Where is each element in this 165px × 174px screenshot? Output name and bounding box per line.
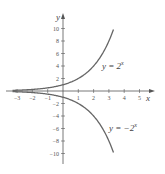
curve-label-2x: y = 2x	[101, 60, 124, 71]
y-tick-label: −6	[53, 126, 59, 132]
y-tick-label: −2	[53, 101, 59, 107]
y-tick-label: 4	[56, 63, 59, 69]
axes	[6, 13, 155, 164]
y-tick-label: 10	[53, 26, 59, 32]
x-tick-label: 1	[77, 95, 80, 101]
y-tick-label: −4	[53, 113, 59, 119]
curve-label-neg2x: y = −2x	[108, 122, 137, 133]
x-tick-label: 3	[107, 95, 110, 101]
y-axis-label: y	[55, 12, 60, 22]
y-tick-label: 6	[56, 51, 59, 57]
x-tick-label: −2	[29, 95, 35, 101]
x-tick-label: −3	[14, 95, 20, 101]
y-tick-label: −8	[53, 138, 59, 144]
x-tick-label: 2	[92, 95, 95, 101]
x-tick-label: −1	[45, 95, 51, 101]
x-axis-label: x	[145, 93, 150, 103]
y-tick-label: 2	[56, 76, 59, 82]
chart-plot: −3−2−112345108642−2−4−6−8−10 x y y = 2x …	[0, 0, 165, 174]
y-axis-arrow-icon	[61, 13, 65, 19]
x-tick-label: 4	[123, 95, 126, 101]
y-tick-label: −10	[50, 151, 59, 157]
y-tick-label: 8	[56, 38, 59, 44]
x-tick-label: 5	[138, 95, 141, 101]
